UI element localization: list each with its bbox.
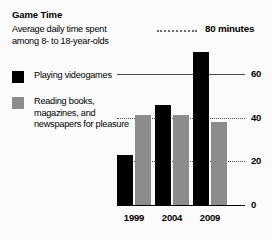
annotation-leader-80-minutes (157, 30, 197, 32)
x-tick-label-2004: 2004 (151, 212, 193, 223)
x-tick-label-2009: 2009 (189, 212, 231, 223)
bar-videogames-2004 (155, 105, 171, 205)
bar-reading-1999 (135, 115, 151, 205)
y-tick-label-20: 20 (251, 155, 261, 166)
x-tick-label-1999: 1999 (113, 212, 155, 223)
bar-videogames-1999 (117, 155, 133, 205)
axis-baseline (117, 205, 245, 206)
bar-reading-2009 (211, 122, 227, 205)
y-tick-label-60: 60 (251, 68, 261, 79)
bar-videogames-2009 (193, 52, 209, 205)
plot-area: 80 minutes 60 40 20 0 1999 2004 2009 (0, 0, 272, 240)
gridline-60 (117, 74, 245, 75)
y-tick-label-40: 40 (251, 112, 261, 123)
bar-reading-2004 (173, 115, 189, 205)
chart-figure: Game Time Average daily time spent among… (0, 0, 272, 240)
y-tick-label-0: 0 (251, 199, 256, 210)
annotation-label-80-minutes: 80 minutes (205, 23, 254, 34)
